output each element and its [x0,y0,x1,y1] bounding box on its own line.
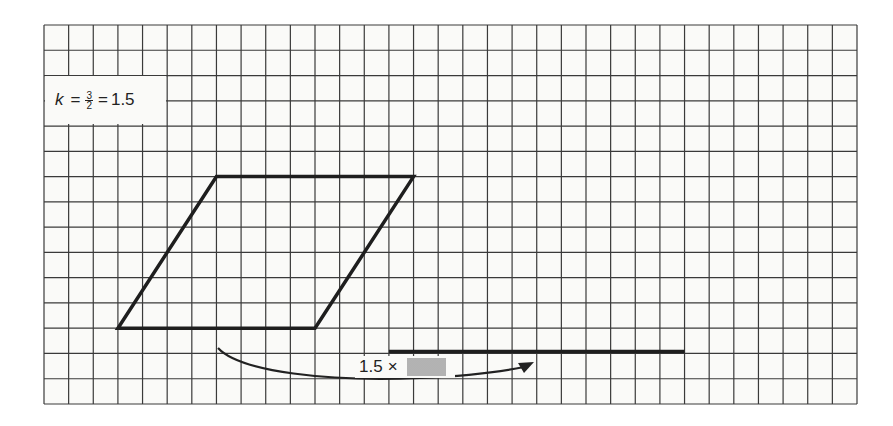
scale-factor-label: k = 3 2 = 1.5 [45,76,166,124]
scale-factor-variable: k [55,90,64,110]
fraction-numerator: 3 [85,91,93,101]
times-icon: × [388,357,398,377]
diagram-stage: k = 3 2 = 1.5 1.5 × [0,0,893,426]
fraction-denominator: 2 [86,101,92,110]
equals-sign: = [71,90,81,110]
arrow-label: 1.5 × [355,356,455,378]
equals-sign-2: = [98,90,108,110]
fraction: 3 2 [85,91,93,110]
scale-factor-value: 1.5 [111,90,135,110]
blank-answer-box [407,358,446,376]
multiplier-value: 1.5 [359,357,383,377]
